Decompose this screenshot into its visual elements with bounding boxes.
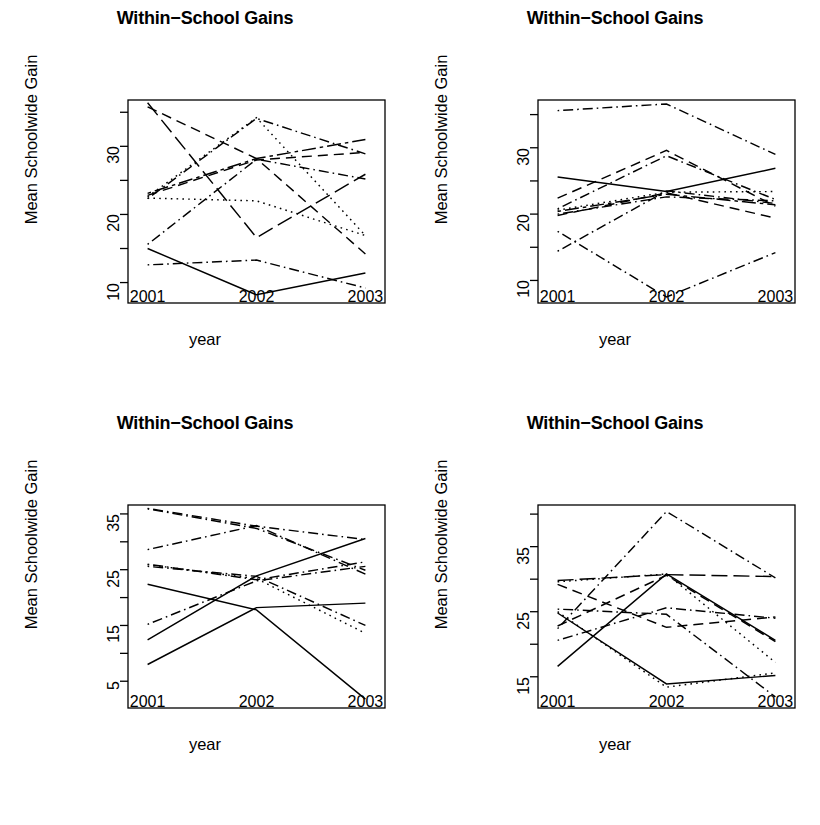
series-line: [558, 168, 776, 191]
y-tick-label: 25: [105, 570, 123, 588]
series-line: [148, 508, 366, 539]
y-tick-label: 35: [105, 514, 123, 532]
plot-frame: [128, 100, 385, 303]
chart-panel-bottom-left: Within−School Gains Mean Schoolwide Gain…: [0, 405, 410, 800]
y-tick-label: 25: [515, 612, 533, 630]
x-tick-label: 2001: [540, 288, 576, 306]
plot-frame: [538, 100, 795, 303]
x-tick-label: 2002: [239, 288, 275, 306]
series-line: [148, 198, 366, 235]
x-tick-label: 2003: [758, 288, 794, 306]
x-tick-labels: 200120022003: [0, 288, 410, 310]
series-line: [558, 104, 776, 154]
series-line: [558, 156, 776, 209]
series-line: [558, 608, 776, 641]
x-tick-label: 2002: [649, 693, 685, 711]
x-tick-label: 2003: [348, 693, 384, 711]
y-tick-label: 15: [515, 677, 533, 695]
x-tick-label: 2001: [540, 693, 576, 711]
x-tick-label: 2003: [758, 693, 794, 711]
series-line: [148, 118, 366, 236]
y-tick-label: 15: [105, 625, 123, 643]
series-line: [558, 613, 776, 684]
x-tick-label: 2003: [348, 288, 384, 306]
x-tick-labels: 200120022003: [0, 693, 410, 715]
series-line: [148, 603, 366, 664]
y-tick-label: 30: [105, 146, 123, 164]
series-line: [148, 565, 366, 634]
y-tick-label: 20: [515, 214, 533, 232]
x-axis-label: year: [410, 735, 820, 754]
x-axis-label: year: [410, 330, 820, 349]
y-tick-label: 5: [105, 681, 123, 690]
series-line: [148, 538, 366, 640]
chart-panel-bottom-right: Within−School Gains Mean Schoolwide Gain…: [410, 405, 820, 800]
series-line: [148, 159, 366, 244]
series-line: [148, 107, 366, 254]
x-axis-label: year: [0, 330, 410, 349]
chart-panel-top-right: Within−School Gains Mean Schoolwide Gain…: [410, 0, 820, 395]
x-tick-labels: 200120022003: [410, 288, 820, 310]
series-line: [558, 612, 776, 687]
x-tick-label: 2002: [239, 693, 275, 711]
y-tick-label: 20: [105, 214, 123, 232]
plot-frame: [128, 505, 385, 708]
series-line: [558, 574, 776, 662]
series-line: [148, 509, 366, 570]
series-line: [148, 584, 366, 699]
series-line: [148, 260, 366, 288]
y-tick-label: 30: [515, 148, 533, 166]
x-axis-label: year: [0, 735, 410, 754]
y-tick-label: 35: [515, 547, 533, 565]
series-line: [558, 197, 776, 214]
series-line: [148, 566, 366, 624]
x-tick-label: 2001: [130, 693, 166, 711]
x-tick-label: 2001: [130, 288, 166, 306]
x-tick-labels: 200120022003: [410, 693, 820, 715]
chart-panel-top-left: Within−School Gains Mean Schoolwide Gain…: [0, 0, 410, 395]
series-line: [558, 150, 776, 206]
figure-canvas: Within−School Gains Mean Schoolwide Gain…: [0, 0, 820, 825]
x-tick-label: 2002: [649, 288, 685, 306]
